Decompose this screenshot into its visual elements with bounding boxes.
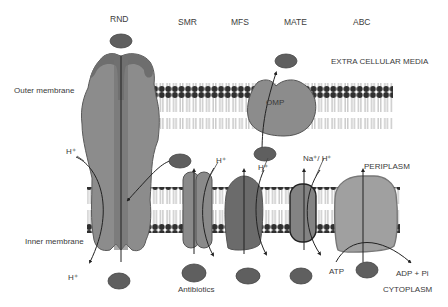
omp-label: OMP bbox=[266, 99, 284, 107]
antibiotics-label: Antibiotics bbox=[178, 286, 214, 294]
region-label-periplasm: PERIPLASM bbox=[364, 163, 410, 171]
smr-pump bbox=[182, 168, 214, 282]
family-label-mate: MATE bbox=[284, 18, 307, 27]
ion-label-rnd-bottom: H⁺ bbox=[68, 274, 78, 282]
atp-label: ATP bbox=[329, 268, 344, 276]
region-label-cytoplasm: CYTOPLASM bbox=[383, 286, 432, 294]
rnd-substrate-top bbox=[110, 34, 132, 48]
inner-membrane-label: Inner membrane bbox=[25, 238, 84, 246]
rnd-substrate-bottom bbox=[108, 273, 130, 289]
family-label-abc: ABC bbox=[353, 18, 370, 27]
family-label-rnd: RND bbox=[110, 15, 128, 24]
family-label-mfs: MFS bbox=[231, 18, 249, 27]
ion-label-mfs: H⁺ bbox=[258, 164, 268, 172]
rnd-pump bbox=[76, 34, 191, 289]
omp-protein bbox=[247, 54, 315, 161]
adp-label: ADP + Pi bbox=[396, 270, 429, 278]
mfs-pump bbox=[225, 170, 266, 284]
ion-label-rnd-top: H⁺ bbox=[66, 148, 76, 156]
ion-label-smr: H⁺ bbox=[216, 157, 226, 165]
ion-label-mate: Na⁺/ H⁺ bbox=[303, 155, 331, 163]
outer-membrane-label: Outer membrane bbox=[14, 87, 74, 95]
region-label-extracellular: EXTRA CELLULAR MEDIA bbox=[331, 58, 428, 66]
family-label-smr: SMR bbox=[178, 18, 197, 27]
